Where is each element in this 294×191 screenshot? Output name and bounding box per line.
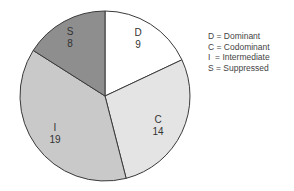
pie-slices	[20, 11, 190, 181]
slice-value-d: 9	[135, 39, 141, 50]
slice-value-c: 14	[152, 126, 164, 137]
legend-item-dominant: D = Dominant	[208, 31, 270, 42]
chart-legend: D = Dominant C = Codominant I = Intermed…	[208, 31, 270, 73]
pie-chart: D 9 C 14 I 19 S 8	[0, 0, 294, 191]
legend-item-codominant: C = Codominant	[208, 42, 270, 53]
slice-label-d: D 9	[134, 27, 141, 50]
slice-letter-c: C	[154, 114, 161, 125]
slice-value-i: 19	[49, 134, 61, 145]
slice-letter-i: I	[54, 122, 57, 133]
slice-letter-d: D	[134, 27, 141, 38]
legend-item-suppressed: S = Suppressed	[208, 63, 270, 74]
legend-item-intermediate: I = Intermediate	[208, 52, 270, 63]
slice-letter-s: S	[67, 26, 74, 37]
slice-value-s: 8	[67, 38, 73, 49]
slice-label-s: S 8	[67, 26, 74, 49]
